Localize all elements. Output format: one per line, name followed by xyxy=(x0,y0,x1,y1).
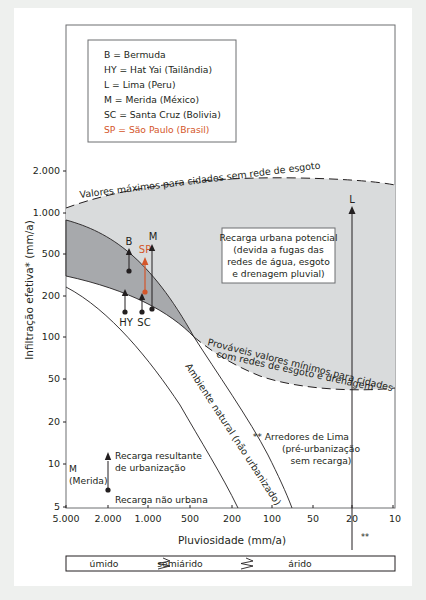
m-point xyxy=(149,306,154,311)
lima-annotation-line-3: sem recarga) xyxy=(291,455,352,466)
point-label-l: L xyxy=(349,194,355,205)
chart: L B HY SC SP M B = Bermuda HY = Hat Yai … xyxy=(0,0,426,600)
y-tick-label: 100 xyxy=(42,331,60,342)
sc-point xyxy=(139,309,144,314)
climate-humid-label: úmido xyxy=(90,558,119,569)
point-label-sc: SC xyxy=(137,317,150,328)
legend-entry-hy: HY = Hat Yai (Tailândia) xyxy=(104,64,212,75)
y-tick-label: 10 xyxy=(48,458,60,469)
recharge-box-line-3: redes de água, esgoto xyxy=(227,256,330,267)
legend-entry-m: M = Merida (México) xyxy=(104,94,199,105)
merida-label-1: M xyxy=(69,463,77,474)
key-urban-label-1: Recarga resultante xyxy=(115,450,202,461)
legend-entry-sp: SP = São Paulo (Brasil) xyxy=(104,124,209,135)
y-tick-label: 50 xyxy=(48,373,60,384)
x-tick-label: 200 xyxy=(223,513,241,524)
lima-annotation-line-2: (pré-urbanização xyxy=(282,443,361,454)
climate-arid-label: árido xyxy=(288,558,312,569)
y-axis-label: Infiltração efetiva* (mm/a) xyxy=(23,220,35,360)
x-axis-label: Pluviosidade (mm/a) xyxy=(178,534,286,546)
key-nonurban-label: Recarga não urbana xyxy=(115,494,208,505)
x-tick-label: 10 xyxy=(389,513,401,524)
y-tick-label: 200 xyxy=(42,290,60,301)
point-label-b: B xyxy=(126,236,133,247)
legend-entry-sc: SC = Santa Cruz (Bolivia) xyxy=(104,109,221,120)
point-label-sp: SP xyxy=(139,244,151,255)
y-tick-label: 1.000 xyxy=(33,207,60,218)
recharge-box-line-4: e drenagem pluvial) xyxy=(232,268,324,279)
point-label-hy: HY xyxy=(119,317,134,328)
legend-entry-l: L = Lima (Peru) xyxy=(104,79,175,90)
b-point xyxy=(126,268,131,273)
x-tick-label: 2.000 xyxy=(94,513,121,524)
x-tick-label: 1.000 xyxy=(134,513,161,524)
hy-point xyxy=(122,309,127,314)
y-tick-label: 20 xyxy=(48,416,60,427)
y-tick-label: 5 xyxy=(54,501,60,512)
x-tick-label: 5.000 xyxy=(52,513,79,524)
x-tick-label: 50 xyxy=(307,513,319,524)
recharge-box-line-1: Recarga urbana potencial xyxy=(219,232,337,243)
point-label-m: M xyxy=(149,231,158,242)
merida-label-2: (Merida) xyxy=(69,475,108,486)
lima-annotation-line-1: ** Arredores de Lima xyxy=(253,431,349,442)
key-point xyxy=(105,487,110,492)
recharge-box-line-2: (devida a fugas das xyxy=(233,244,324,255)
x-tick-label: 20 xyxy=(346,513,358,524)
x-tick-label: 100 xyxy=(263,513,281,524)
y-tick-label: 500 xyxy=(42,248,60,259)
sp-point xyxy=(142,289,147,294)
legend-entry-b: B = Bermuda xyxy=(104,49,166,60)
key-urban-label-2: de urbanização xyxy=(115,462,186,473)
footnote-marker: ** xyxy=(361,533,369,542)
y-tick-label: 2.000 xyxy=(33,165,60,176)
x-tick-label: 500 xyxy=(181,513,199,524)
